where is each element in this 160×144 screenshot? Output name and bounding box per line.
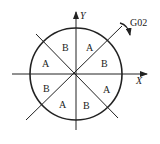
sector-label: B [43,83,50,94]
circle-sector-diagram: Y X G02 A B A B A B A B [0,0,160,144]
sector-label: A [86,42,94,53]
sector-label: A [103,84,111,95]
y-axis-label: Y [80,10,87,21]
clockwise-arrow-icon [120,23,130,35]
diagonal-line-negative [36,34,118,118]
sector-label: B [101,58,108,69]
direction-label: G02 [130,17,147,28]
sector-label: B [83,100,90,111]
sector-label: B [62,42,69,53]
x-axis-label: X [135,75,143,86]
sector-label: A [59,99,67,110]
sector-label: A [42,58,50,69]
